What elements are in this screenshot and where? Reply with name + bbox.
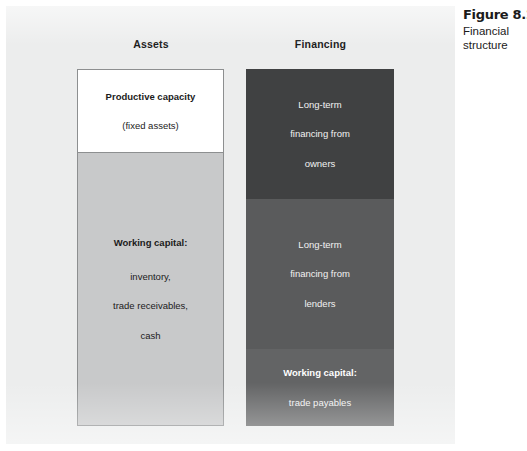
assets-column: Productive capacity (fixed assets) Worki… xyxy=(77,69,224,426)
figure-caption-subtitle: Financial structure xyxy=(463,24,527,52)
assets-fixed-assets-label: (fixed assets) xyxy=(122,121,179,131)
assets-cash-label: cash xyxy=(140,331,160,341)
figure-caption-title: Figure 8.2 xyxy=(463,8,527,22)
assets-block-working-capital: Working capital: inventory, trade receiv… xyxy=(78,153,223,425)
financing-column: Long-term financing from owners Long-ter… xyxy=(246,69,394,426)
financing-lenders-line-2: financing from xyxy=(290,269,350,279)
financing-block-working-capital: Working capital: trade payables xyxy=(246,349,394,426)
financing-block-long-term-lenders: Long-term financing from lenders xyxy=(246,199,394,349)
financing-owners-line-2: financing from xyxy=(290,129,350,139)
financing-lenders-line-3: lenders xyxy=(304,299,335,309)
financing-block-long-term-owners: Long-term financing from owners xyxy=(246,69,394,199)
column-header-assets: Assets xyxy=(77,38,225,50)
figure-panel: Assets Financing Productive capacity (fi… xyxy=(6,6,455,444)
column-header-financing: Financing xyxy=(246,38,395,50)
figure-caption: Figure 8.2 Financial structure xyxy=(463,8,527,52)
financing-owners-line-1: Long-term xyxy=(298,100,341,110)
financing-owners-line-3: owners xyxy=(305,159,336,169)
assets-block-productive-capacity: Productive capacity (fixed assets) xyxy=(78,70,223,153)
assets-inventory-label: inventory, xyxy=(130,272,170,282)
assets-productive-capacity-label: Productive capacity xyxy=(106,92,196,102)
assets-trade-receivables-label: trade receivables, xyxy=(113,301,188,311)
financing-working-capital-label: Working capital: xyxy=(283,368,357,378)
financing-trade-payables-label: trade payables xyxy=(289,398,351,408)
assets-working-capital-label: Working capital: xyxy=(114,238,188,248)
financing-lenders-line-1: Long-term xyxy=(298,240,341,250)
